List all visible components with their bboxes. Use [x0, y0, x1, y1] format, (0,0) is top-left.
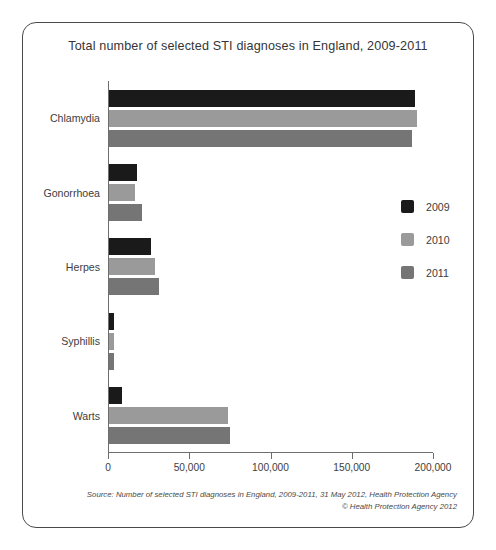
bar-group-herpes	[109, 230, 433, 304]
bar-syphillis-2009[interactable]	[109, 313, 114, 330]
bar-row	[109, 333, 433, 350]
bar-herpes-2010[interactable]	[109, 258, 155, 275]
bar-group-gonorrhoea	[109, 155, 433, 229]
category-label-gonorrhoea: Gonorrhoea	[33, 155, 108, 229]
bar-row	[109, 387, 433, 404]
legend-label-2009: 2009	[426, 201, 450, 213]
bar-warts-2009[interactable]	[109, 387, 122, 404]
legend-item-2009[interactable]: 2009	[401, 195, 491, 218]
chart-frame: Total number of selected STI diagnoses i…	[22, 22, 474, 528]
x-tick-label: 100,000	[252, 462, 289, 473]
x-tick-mark	[271, 453, 272, 459]
bar-row	[109, 238, 433, 255]
plot-area	[108, 81, 433, 453]
bar-group-syphillis	[109, 304, 433, 378]
bar-syphillis-2011[interactable]	[109, 353, 114, 370]
bar-row	[109, 130, 433, 147]
bar-chlamydia-2011[interactable]	[109, 130, 412, 147]
bar-warts-2011[interactable]	[109, 427, 230, 444]
bar-gonorrhoea-2009[interactable]	[109, 164, 137, 181]
x-tick-label: 150,000	[333, 462, 370, 473]
legend-label-2010: 2010	[426, 234, 450, 246]
bar-row	[109, 184, 433, 201]
chart-title: Total number of selected STI diagnoses i…	[23, 39, 473, 53]
bar-row	[109, 427, 433, 444]
bar-row	[109, 407, 433, 424]
bar-gonorrhoea-2011[interactable]	[109, 204, 142, 221]
bar-syphillis-2010[interactable]	[109, 333, 114, 350]
bar-row	[109, 353, 433, 370]
legend-swatch-2010	[401, 233, 414, 246]
bar-chlamydia-2009[interactable]	[109, 90, 415, 107]
legend-swatch-2011	[401, 266, 414, 279]
bar-warts-2010[interactable]	[109, 407, 228, 424]
chart-plot-wrapper: ChlamydiaGonorrhoeaHerpesSyphillisWarts …	[33, 81, 463, 471]
legend-swatch-2009	[401, 200, 414, 213]
category-label-syphillis: Syphillis	[33, 304, 108, 378]
bar-row	[109, 313, 433, 330]
x-tick-mark	[433, 453, 434, 459]
bar-row	[109, 164, 433, 181]
bar-row	[109, 278, 433, 295]
category-axis-labels: ChlamydiaGonorrhoeaHerpesSyphillisWarts	[33, 81, 108, 453]
chart-source-footer: Source: Number of selected STI diagnoses…	[59, 489, 457, 513]
x-tick-label: 0	[105, 462, 111, 473]
bar-row	[109, 90, 433, 107]
x-tick-mark	[189, 453, 190, 459]
bar-herpes-2011[interactable]	[109, 278, 159, 295]
bar-row	[109, 258, 433, 275]
bar-herpes-2009[interactable]	[109, 238, 151, 255]
chart-legend: 200920102011	[401, 195, 491, 294]
bar-group-warts	[109, 379, 433, 453]
category-label-warts: Warts	[33, 379, 108, 453]
bar-gonorrhoea-2010[interactable]	[109, 184, 135, 201]
x-tick-mark	[108, 453, 109, 459]
x-tick-label: 200,000	[415, 462, 452, 473]
category-label-chlamydia: Chlamydia	[33, 81, 108, 155]
legend-item-2010[interactable]: 2010	[401, 228, 491, 251]
bar-row	[109, 204, 433, 221]
source-line-1: Source: Number of selected STI diagnoses…	[59, 489, 457, 501]
source-line-2: © Health Protection Agency 2012	[59, 501, 457, 513]
bar-chlamydia-2010[interactable]	[109, 110, 417, 127]
legend-item-2011[interactable]: 2011	[401, 261, 491, 284]
bar-group-chlamydia	[109, 81, 433, 155]
bar-row	[109, 110, 433, 127]
category-label-herpes: Herpes	[33, 230, 108, 304]
legend-label-2011: 2011	[426, 267, 449, 279]
x-tick-mark	[352, 453, 353, 459]
value-axis: 050,000100,000150,000200,000	[108, 453, 433, 483]
x-tick-label: 50,000	[174, 462, 205, 473]
